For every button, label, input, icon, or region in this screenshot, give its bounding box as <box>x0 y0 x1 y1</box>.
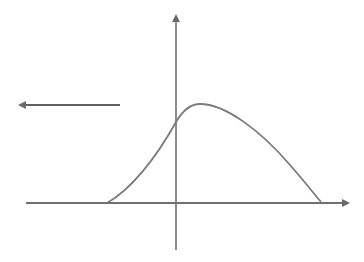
diagram-canvas <box>0 0 364 262</box>
distribution-curve <box>107 104 321 203</box>
